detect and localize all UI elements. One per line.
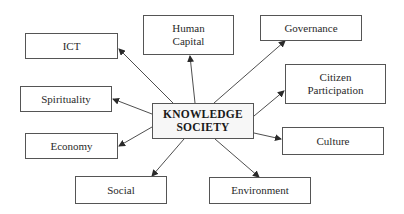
node-environment-label: Environment	[231, 184, 288, 197]
node-governance: Governance	[260, 15, 362, 41]
node-environment: Environment	[209, 177, 311, 204]
node-social-label: Social	[107, 184, 135, 197]
node-citizen-participation: Citizen Participation	[285, 64, 386, 104]
node-social: Social	[75, 176, 167, 204]
node-culture-label: Culture	[317, 135, 350, 148]
node-citizen-participation-label: Citizen Participation	[307, 71, 363, 97]
node-ict: ICT	[25, 33, 118, 59]
arrow-to-environment	[215, 139, 259, 177]
arrow-to-ict	[119, 49, 173, 103]
node-spirituality-label: Spirituality	[41, 93, 91, 106]
node-human-capital-label: Human Capital	[172, 22, 204, 48]
arrow-to-spirituality	[113, 99, 152, 114]
arrow-to-human-capital	[190, 56, 195, 103]
node-economy: Economy	[25, 133, 118, 159]
node-economy-label: Economy	[50, 140, 92, 153]
knowledge-society-diagram: ICT Human Capital Governance Citizen Par…	[0, 0, 404, 214]
node-knowledge-society: KNOWLEDGE SOCIETY	[152, 103, 254, 139]
arrow-to-citizen-participation	[254, 91, 284, 116]
node-spirituality: Spirituality	[20, 86, 112, 112]
arrow-to-social	[152, 139, 184, 176]
arrow-to-economy	[119, 127, 152, 146]
node-knowledge-society-label: KNOWLEDGE SOCIETY	[163, 108, 243, 134]
node-ict-label: ICT	[63, 40, 81, 53]
node-human-capital: Human Capital	[143, 15, 234, 55]
arrow-to-culture	[254, 133, 281, 139]
node-governance-label: Governance	[284, 22, 337, 35]
node-culture: Culture	[282, 127, 384, 155]
